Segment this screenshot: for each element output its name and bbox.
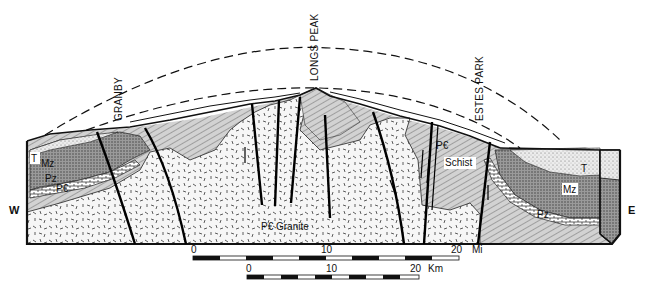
- label-tertiary-west: T: [31, 153, 37, 164]
- label-precambrian-schist: P€: [436, 140, 449, 151]
- label-precambrian-west: P€: [56, 183, 69, 194]
- cross-section-diagram: T Mz Pz P€ P€ Granite P€ Schist T Mz Pz …: [0, 0, 649, 295]
- label-schist: Schist: [445, 157, 472, 168]
- scale-mi-20: 20: [451, 244, 463, 255]
- scale-mi-unit: Mi: [472, 244, 483, 255]
- scale-km-20: 20: [410, 263, 422, 274]
- place-label-estes-park: ESTES PARK: [474, 56, 485, 121]
- label-tertiary-east: T: [581, 163, 587, 174]
- scale-mi-0: 0: [191, 244, 197, 255]
- direction-east: E: [628, 204, 635, 216]
- label-mesozoic-west: Mz: [41, 158, 54, 169]
- scale-mi-10: 10: [321, 244, 333, 255]
- label-paleozoic-west: Pz: [45, 173, 57, 184]
- scale-bar-km: 0 10 20 Km: [246, 263, 443, 279]
- label-granite: P€ Granite: [261, 221, 309, 232]
- place-label-granby: GRANBY: [113, 77, 124, 121]
- label-paleozoic-east: Pz: [537, 209, 549, 220]
- scale-km-unit: Km: [428, 263, 443, 274]
- place-label-longs-peak: LONGS PEAK: [309, 14, 320, 81]
- direction-west: W: [9, 204, 20, 216]
- scale-bar-miles: 0 10 20 Mi: [191, 244, 483, 260]
- scale-km-0: 0: [246, 263, 252, 274]
- scale-km-10: 10: [326, 263, 338, 274]
- label-mesozoic-east: Mz: [563, 184, 576, 195]
